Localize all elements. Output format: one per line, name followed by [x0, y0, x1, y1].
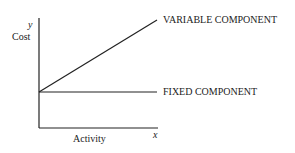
variable-component-line — [39, 20, 157, 92]
fixed-component-label: FIXED COMPONENT — [163, 87, 257, 97]
x-axis-title: Activity — [73, 134, 106, 144]
y-axis-symbol: y — [28, 20, 32, 30]
y-axis-title: Cost — [12, 32, 30, 42]
variable-component-label: VARIABLE COMPONENT — [163, 15, 277, 25]
x-axis-symbol: x — [153, 130, 157, 140]
